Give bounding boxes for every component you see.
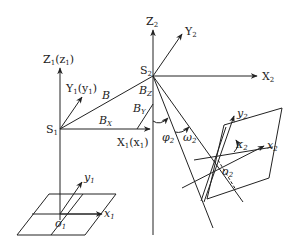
label-bz: BZ: [138, 84, 152, 98]
label-o2: o2: [222, 165, 234, 179]
label-z2: Z2: [146, 15, 158, 29]
right-plane-outline: [207, 108, 282, 199]
label-s1: S1: [46, 123, 58, 137]
label-y2: Y2: [184, 25, 197, 39]
label-b: B: [101, 89, 110, 102]
phi-ray: [153, 76, 213, 228]
label-y1-image: y1: [83, 171, 95, 185]
label-z1: Z1(z1): [43, 53, 74, 67]
label-kappa2: κ2: [235, 138, 248, 152]
label-o1: o1: [55, 217, 66, 231]
label-x1: X1(x1): [117, 136, 149, 150]
label-s2: S2: [140, 64, 152, 78]
left-image-plane: [17, 182, 116, 235]
y2-image-axis: [204, 116, 234, 202]
label-y2-image: y2: [236, 107, 248, 121]
right-plane-mid-v: [201, 127, 226, 201]
label-bx: BX: [98, 114, 113, 128]
label-by: BY: [132, 102, 147, 116]
label-x2: X2: [262, 70, 274, 84]
label-y1: Y1(y1): [65, 82, 97, 96]
stereo-photogrammetry-diagram: Z1(z1) Y1(y1) X1(x1) S1 S2 Z2 Y2 X2 B BX…: [0, 0, 290, 251]
y1-axis: [60, 97, 82, 129]
phi-arc: [153, 118, 168, 123]
right-plane-mid-h: [194, 147, 273, 160]
label-x1-image: x1: [104, 207, 115, 221]
label-x2-image: x2: [267, 139, 278, 153]
diagram-svg: Z1(z1) Y1(y1) X1(x1) S1 S2 Z2 Y2 X2 B BX…: [0, 0, 290, 251]
label-phi2: φ2: [162, 131, 175, 145]
y2-axis: [153, 34, 182, 76]
label-omega2: ω2: [183, 131, 197, 145]
